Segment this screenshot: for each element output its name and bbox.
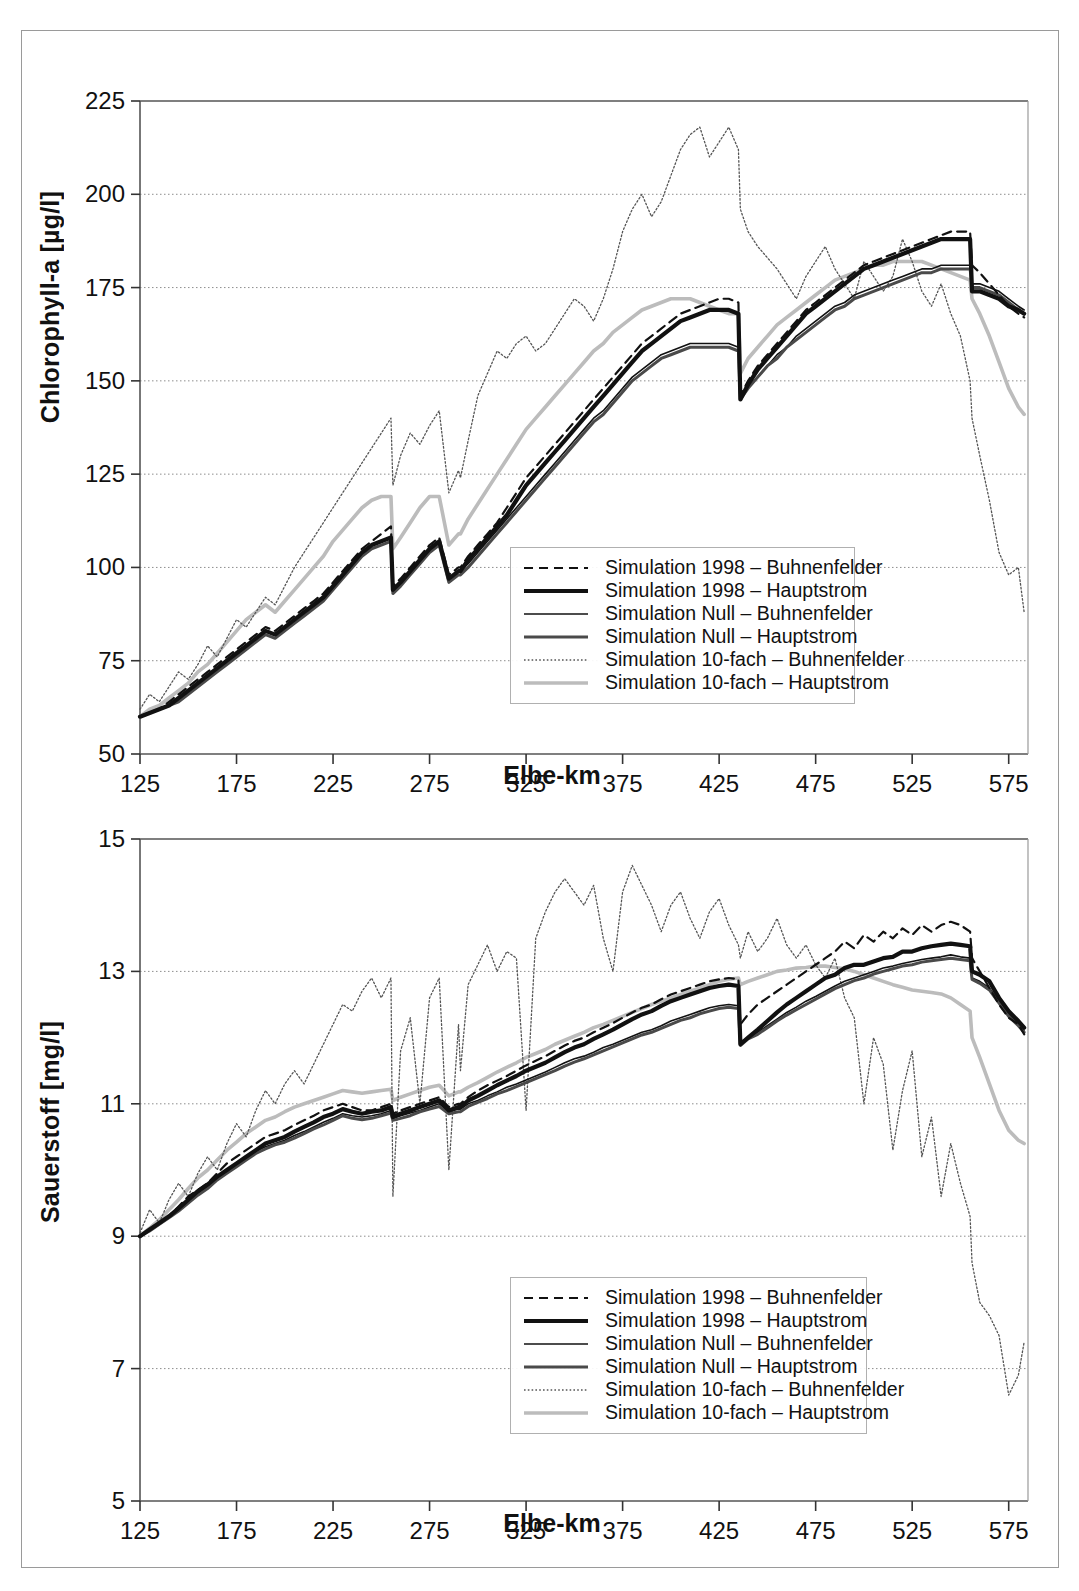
legend-item-label: Simulation Null – Hauptstrom [605,1357,858,1377]
legend-line-swatch [523,1383,589,1397]
legend-sauerstoff: Simulation 1998 – BuhnenfelderSimulation… [510,1277,867,1434]
legend-item-label: Simulation 1998 – Buhnenfelder [605,558,883,578]
svg-text:75: 75 [98,647,125,674]
legend-item-label: Simulation 10-fach – Buhnenfelder [605,1380,904,1400]
legend-item-label: Simulation 1998 – Buhnenfelder [605,1288,883,1308]
chart-sauerstoff: Sauerstoff [mg/l] 5791113151251752252753… [22,791,1060,1569]
figure-frame: Chlorophyll-a [µg/l] 5075100125150175200… [21,30,1059,1568]
legend-item: Simulation 10-fach – Hauptstrom [523,671,840,694]
legend-item-label: Simulation Null – Buhnenfelder [605,1334,873,1354]
legend-line-swatch [523,676,589,690]
legend-line-swatch [523,561,589,575]
legend-item: Simulation 10-fach – Buhnenfelder [523,1378,852,1401]
legend-item: Simulation 1998 – Buhnenfelder [523,1286,852,1309]
svg-text:125: 125 [85,460,125,487]
svg-text:150: 150 [85,367,125,394]
svg-text:13: 13 [98,957,125,984]
legend-item: Simulation 10-fach – Buhnenfelder [523,648,840,671]
legend-line-swatch [523,630,589,644]
legend-item-label: Simulation 1998 – Hauptstrom [605,581,867,601]
svg-text:9: 9 [112,1222,125,1249]
legend-line-swatch [523,1337,589,1351]
series-line [140,955,1024,1236]
legend-item: Simulation 1998 – Hauptstrom [523,1309,852,1332]
legend-item-label: Simulation 10-fach – Hauptstrom [605,673,889,693]
legend-line-swatch [523,1291,589,1305]
legend-item-label: Simulation 10-fach – Hauptstrom [605,1403,889,1423]
legend-item: Simulation 1998 – Hauptstrom [523,579,840,602]
svg-text:225: 225 [85,87,125,114]
legend-item-label: Simulation 1998 – Hauptstrom [605,1311,867,1331]
x-axis-label-sauerstoff: Elbe-km [112,1509,992,1538]
legend-item: Simulation Null – Buhnenfelder [523,1332,852,1355]
legend-line-swatch [523,1360,589,1374]
legend-line-swatch [523,1406,589,1420]
chart-chlorophyll: Chlorophyll-a [µg/l] 5075100125150175200… [22,31,1060,821]
svg-text:175: 175 [85,274,125,301]
svg-text:200: 200 [85,180,125,207]
legend-item: Simulation 1998 – Buhnenfelder [523,556,840,579]
legend-item-label: Simulation Null – Buhnenfelder [605,604,873,624]
svg-text:575: 575 [989,1517,1029,1544]
x-axis-label-chlorophyll: Elbe-km [112,761,992,790]
legend-item: Simulation Null – Buhnenfelder [523,602,840,625]
plot-area-sauerstoff: 579111315125175225275325375425475525575 [22,791,1060,1569]
legend-line-swatch [523,653,589,667]
legend-line-swatch [523,607,589,621]
legend-item: Simulation Null – Hauptstrom [523,1355,852,1378]
legend-line-swatch [523,1314,589,1328]
series-line [140,944,1024,1237]
legend-chlorophyll: Simulation 1998 – BuhnenfelderSimulation… [510,547,855,704]
svg-text:100: 100 [85,553,125,580]
legend-item-label: Simulation Null – Hauptstrom [605,627,858,647]
legend-item: Simulation 10-fach – Hauptstrom [523,1401,852,1424]
legend-item-label: Simulation 10-fach – Buhnenfelder [605,650,904,670]
legend-item: Simulation Null – Hauptstrom [523,625,840,648]
svg-text:7: 7 [112,1355,125,1382]
svg-text:11: 11 [100,1090,125,1117]
series-line [140,958,1024,1236]
legend-line-swatch [523,584,589,598]
svg-text:15: 15 [98,825,125,852]
